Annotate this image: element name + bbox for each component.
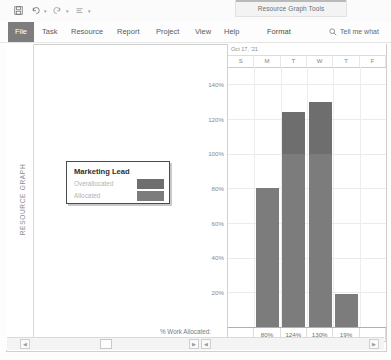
y-axis-label-140%: 140% bbox=[208, 81, 224, 88]
y-axis-label-120%: 120% bbox=[208, 116, 224, 123]
save-icon-svg bbox=[14, 6, 23, 15]
undo-icon[interactable] bbox=[29, 4, 42, 17]
contextual-tab-title: Resource Graph Tools bbox=[236, 5, 346, 12]
ribbon-tab-strip: File Task Resource Report Project View H… bbox=[0, 22, 391, 43]
bar-M-80[interactable] bbox=[256, 188, 279, 327]
chart-plot-area bbox=[228, 67, 386, 327]
tab-file[interactable]: File bbox=[8, 22, 34, 42]
timescale-day-2: T bbox=[281, 55, 307, 67]
scroll-right-icon[interactable]: ▶ bbox=[369, 339, 379, 349]
timescale-day-3: W bbox=[307, 55, 333, 67]
work-allocated-label: % Work Allocated: bbox=[160, 328, 211, 335]
y-axis-label-80%: 80% bbox=[212, 185, 224, 192]
legend-swatch-overallocated bbox=[137, 179, 164, 189]
timescale-week-label: Oct 17, '21 bbox=[231, 46, 258, 52]
timescale-day-5: F bbox=[360, 55, 386, 67]
tab-task[interactable]: Task bbox=[42, 24, 57, 40]
bar-W-130[interactable] bbox=[309, 102, 332, 327]
project-resource-graph-window: ▾ ▾ ▾ Resource Graph Tools bbox=[0, 0, 391, 360]
bar-segment-overallocated bbox=[309, 102, 332, 154]
scroll-left-icon-chart-pane[interactable]: ◀ bbox=[201, 339, 211, 349]
save-icon[interactable] bbox=[12, 4, 25, 17]
scroll-right-icon-left-pane[interactable]: ▶ bbox=[189, 339, 199, 349]
left-view-strip: RESOURCE GRAPH bbox=[6, 44, 34, 350]
scroll-left-icon[interactable]: ◀ bbox=[20, 339, 30, 349]
tab-view[interactable]: View bbox=[195, 24, 211, 40]
column-separator-4 bbox=[333, 67, 334, 327]
tab-help[interactable]: Help bbox=[224, 24, 239, 40]
redo-dropdown-icon[interactable]: ▾ bbox=[66, 8, 69, 14]
legend-label-overallocated: Overallocated bbox=[74, 180, 113, 187]
search-icon-svg bbox=[329, 28, 337, 36]
customize-qat-icon[interactable]: ▾ bbox=[88, 8, 91, 14]
y-axis-label-100%: 100% bbox=[208, 150, 224, 157]
bar-segment-allocated bbox=[282, 154, 305, 327]
search-icon[interactable] bbox=[329, 28, 337, 36]
legend-title: Marketing Lead bbox=[74, 167, 130, 176]
bar-segment-allocated bbox=[335, 294, 358, 327]
resource-graph-chart: Oct 17, '21 SMTWTF 80%124%130%19% bbox=[227, 44, 386, 350]
link-tasks-icon-svg bbox=[75, 6, 84, 15]
quick-access-toolbar: ▾ ▾ ▾ Resource Graph Tools bbox=[0, 0, 391, 22]
timescale-day-1: M bbox=[254, 55, 280, 67]
legend-row-allocated: Allocated bbox=[74, 191, 164, 202]
y-axis-label-60%: 60% bbox=[212, 220, 224, 227]
legend-label-allocated: Allocated bbox=[74, 192, 100, 199]
redo-icon[interactable] bbox=[51, 4, 64, 17]
y-axis-label-40%: 40% bbox=[212, 254, 224, 261]
quick-access-icon-group: ▾ ▾ ▾ bbox=[12, 4, 91, 17]
y-axis-label-20%: 20% bbox=[212, 289, 224, 296]
legend-row-overallocated: Overallocated bbox=[74, 179, 164, 190]
chart-y-axis: 20%40%60%80%100%120%140% bbox=[196, 44, 227, 350]
horizontal-scrollbar[interactable]: ◀ ▶ ◀ ▶ bbox=[7, 337, 384, 350]
redo-icon-svg bbox=[53, 6, 62, 15]
contextual-tab-accent bbox=[236, 0, 346, 2]
bar-segment-allocated bbox=[309, 154, 332, 327]
legend-swatch-allocated bbox=[137, 191, 164, 201]
timescale-day-0: S bbox=[228, 55, 254, 67]
bar-T-19[interactable] bbox=[335, 294, 358, 327]
scroll-thumb[interactable] bbox=[100, 339, 112, 349]
chart-legend: Marketing Lead Overallocated Allocated bbox=[66, 161, 170, 204]
view-pane-label: RESOURCE GRAPH bbox=[19, 145, 26, 255]
tell-me-box[interactable]: Tell me what bbox=[340, 24, 379, 40]
timescale-day-4: T bbox=[333, 55, 359, 67]
tab-resource[interactable]: Resource bbox=[71, 24, 103, 40]
tab-project[interactable]: Project bbox=[156, 24, 179, 40]
link-tasks-icon[interactable] bbox=[73, 4, 86, 17]
bar-segment-overallocated bbox=[282, 112, 305, 154]
undo-icon-svg bbox=[31, 6, 40, 15]
tab-format[interactable]: Format bbox=[267, 24, 291, 40]
tab-report[interactable]: Report bbox=[117, 24, 140, 40]
column-separator-5 bbox=[360, 67, 361, 327]
undo-dropdown-icon[interactable]: ▾ bbox=[44, 8, 47, 14]
bar-segment-allocated bbox=[256, 188, 279, 327]
contextual-tab-header: Resource Graph Tools bbox=[235, 0, 347, 17]
bar-T-124[interactable] bbox=[282, 112, 305, 327]
